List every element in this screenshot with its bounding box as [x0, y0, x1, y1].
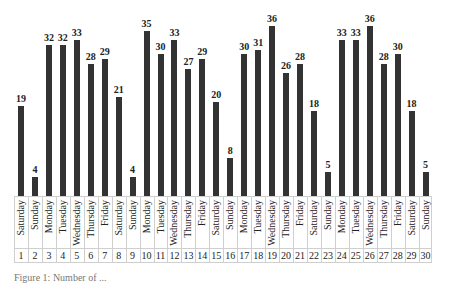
day-number-label: 6 — [84, 250, 98, 261]
table-bottom — [14, 262, 432, 263]
bar-value-label: 27 — [176, 57, 200, 67]
weekday-label: Wednesday — [363, 198, 377, 248]
day-number-label: 7 — [98, 250, 112, 261]
bar — [353, 40, 359, 196]
day-number-label: 23 — [321, 250, 335, 261]
weekday-label: Thursday — [279, 198, 293, 248]
bar — [116, 97, 122, 196]
day-number-label: 4 — [56, 250, 70, 261]
weekday-label: Thursday — [181, 198, 195, 248]
bar — [60, 45, 66, 196]
weekday-label: Sunday — [28, 198, 42, 248]
bar — [297, 64, 303, 196]
day-number-label: 20 — [279, 250, 293, 261]
bar — [199, 59, 205, 196]
bar-value-label: 18 — [400, 99, 424, 109]
weekday-label: Thursday — [377, 198, 391, 248]
day-number-label: 1 — [14, 250, 28, 261]
day-number-label: 5 — [70, 250, 84, 261]
bar — [423, 172, 429, 196]
day-number-label: 10 — [140, 250, 154, 261]
bar — [227, 158, 233, 196]
weekday-label: Monday — [140, 198, 154, 248]
bar — [269, 26, 275, 196]
bar — [241, 54, 247, 196]
bar-value-label: 28 — [372, 52, 396, 62]
weekday-label: Thursday — [84, 198, 98, 248]
day-number-label: 22 — [307, 250, 321, 261]
bar-value-label: 33 — [344, 28, 368, 38]
bar-value-label: 35 — [135, 19, 159, 29]
day-number-label: 17 — [237, 250, 251, 261]
bar-value-label: 4 — [121, 165, 145, 175]
weekday-label: Tuesday — [349, 198, 363, 248]
bar-value-label: 29 — [93, 47, 117, 57]
bar — [339, 40, 345, 196]
day-number-label: 3 — [42, 250, 56, 261]
bar — [381, 64, 387, 196]
bar-value-label: 18 — [302, 99, 326, 109]
day-number-label: 19 — [265, 250, 279, 261]
day-number-label: 14 — [195, 250, 209, 261]
bar — [102, 59, 108, 196]
bar — [144, 31, 150, 196]
weekday-label: Monday — [237, 198, 251, 248]
bar-value-label: 5 — [414, 160, 438, 170]
weekday-label: Saturday — [307, 198, 321, 248]
weekday-label: Wednesday — [70, 198, 84, 248]
weekday-label: Tuesday — [56, 198, 70, 248]
bar-value-label: 30 — [386, 42, 410, 52]
bar — [409, 111, 415, 196]
weekday-label: Tuesday — [251, 198, 265, 248]
day-number-label: 24 — [335, 250, 349, 261]
bar-value-label: 21 — [107, 85, 131, 95]
day-number-label: 9 — [126, 250, 140, 261]
bar — [130, 177, 136, 196]
bar — [18, 106, 24, 196]
bar-value-label: 5 — [316, 160, 340, 170]
bar-value-label: 20 — [204, 90, 228, 100]
weekday-label: Sunday — [419, 198, 433, 248]
day-number-label: 8 — [112, 250, 126, 261]
day-number-label: 12 — [167, 250, 181, 261]
bar — [32, 177, 38, 196]
day-number-label: 28 — [391, 250, 405, 261]
bar-value-label: 4 — [23, 165, 47, 175]
weekday-label: Saturday — [405, 198, 419, 248]
day-number-label: 29 — [405, 250, 419, 261]
figure-caption: Figure 1: Number of ... — [14, 272, 107, 283]
day-number-label: 27 — [377, 250, 391, 261]
weekday-label: Saturday — [14, 198, 28, 248]
weekday-label: Wednesday — [265, 198, 279, 248]
bar-value-label: 8 — [218, 146, 242, 156]
bar — [395, 54, 401, 196]
bar-value-label: 29 — [190, 47, 214, 57]
bar-value-label: 33 — [162, 28, 186, 38]
day-number-label: 13 — [181, 250, 195, 261]
bar — [88, 64, 94, 196]
day-number-label: 30 — [419, 250, 433, 261]
bar — [185, 69, 191, 196]
day-number-label: 25 — [349, 250, 363, 261]
day-number-label: 26 — [363, 250, 377, 261]
bar — [255, 50, 261, 196]
bar — [74, 40, 80, 196]
weekday-label: Tuesday — [154, 198, 168, 248]
weekday-label: Sunday — [321, 198, 335, 248]
weekday-label: Monday — [42, 198, 56, 248]
bar-value-label: 31 — [246, 38, 270, 48]
day-number-label: 21 — [293, 250, 307, 261]
day-number-label: 15 — [209, 250, 223, 261]
bar — [46, 45, 52, 196]
weekday-label: Saturday — [209, 198, 223, 248]
day-number-label: 16 — [223, 250, 237, 261]
weekday-label: Saturday — [112, 198, 126, 248]
weekday-label: Friday — [98, 198, 112, 248]
bar-value-label: 26 — [274, 61, 298, 71]
bar-value-label: 19 — [9, 94, 33, 104]
day-number-label: 2 — [28, 250, 42, 261]
weekday-label: Sunday — [126, 198, 140, 248]
weekday-label: Friday — [391, 198, 405, 248]
weekday-label: Friday — [293, 198, 307, 248]
